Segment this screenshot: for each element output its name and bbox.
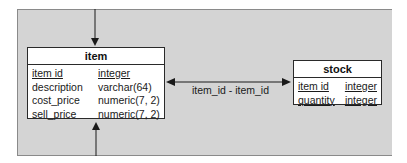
arrow-bottom-into-item [92, 122, 100, 156]
column-name: description [32, 81, 83, 95]
column-name: item id [32, 67, 63, 81]
entity-columns: item id integer description varchar(64) … [28, 65, 164, 122]
column-type: integer [345, 80, 377, 94]
column-row: cost_price numeric(7, 2) [32, 94, 160, 108]
column-type: integer [98, 67, 160, 81]
relationship-label: item_id - item_id [192, 84, 269, 96]
column-type: integer [345, 94, 377, 108]
entity-columns: item id integer quantity integer [294, 78, 381, 108]
column-name: cost_price [32, 94, 80, 108]
column-row: sell_price numeric(7, 2) [32, 108, 160, 122]
column-type: varchar(64) [98, 81, 160, 95]
entity-stock[interactable]: stock item id integer quantity integer [293, 60, 382, 105]
column-row: item id integer [298, 80, 377, 94]
entity-title: item [28, 48, 164, 65]
column-row: item id integer [32, 67, 160, 81]
column-name: item id [298, 80, 329, 94]
entity-title: stock [294, 61, 381, 78]
column-type: numeric(7, 2) [98, 108, 160, 122]
column-name: quantity [298, 94, 335, 108]
entity-item[interactable]: item item id integer description varchar… [27, 47, 165, 119]
column-type: numeric(7, 2) [98, 94, 160, 108]
column-row: quantity integer [298, 94, 377, 108]
column-row: description varchar(64) [32, 81, 160, 95]
column-name: sell_price [32, 108, 76, 122]
arrow-top-into-item [91, 9, 99, 46]
